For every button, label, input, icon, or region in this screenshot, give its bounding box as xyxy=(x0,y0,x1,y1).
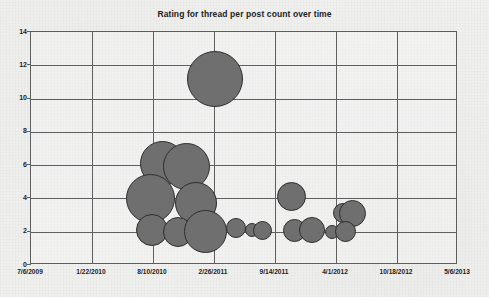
x-axis-tick-label: 2/26/2011 xyxy=(199,268,228,275)
page-title: Rating for thread per post count over ti… xyxy=(0,9,489,19)
x-axis: 7/6/20091/22/20108/10/20102/26/20119/14/… xyxy=(0,266,489,282)
x-axis-tick-label: 8/10/2010 xyxy=(137,268,166,275)
y-axis-tick-mark xyxy=(27,31,31,32)
y-axis-tick-label: 6 xyxy=(3,161,27,168)
x-axis-tick-label: 1/22/2010 xyxy=(76,268,105,275)
y-axis: 02468101214 xyxy=(0,31,27,264)
gridline-horizontal xyxy=(31,198,456,199)
data-bubble[interactable] xyxy=(299,217,325,243)
y-axis-tick-mark xyxy=(27,64,31,65)
x-axis-tick-label: 4/1/2012 xyxy=(322,268,348,275)
x-axis-tick-label: 5/6/2013 xyxy=(444,268,470,275)
x-axis-tick-label: 9/14/2011 xyxy=(259,268,288,275)
y-axis-tick-mark xyxy=(27,98,31,99)
y-axis-tick-mark xyxy=(27,231,31,232)
y-axis-tick-label: 2 xyxy=(3,227,27,234)
y-axis-tick-label: 12 xyxy=(3,61,27,68)
x-axis-tick-label: 10/18/2012 xyxy=(379,268,412,275)
plot-area xyxy=(30,31,457,264)
data-bubble[interactable] xyxy=(226,218,246,238)
y-axis-tick-label: 8 xyxy=(3,127,27,134)
y-axis-tick-mark xyxy=(27,264,31,265)
gridline-horizontal xyxy=(31,165,456,166)
x-axis-tick-label: 7/6/2009 xyxy=(17,268,43,275)
y-axis-tick-mark xyxy=(27,131,31,132)
y-axis-tick-label: 14 xyxy=(3,28,27,35)
gridline-vertical xyxy=(92,32,93,263)
bubble-chart: Rating for thread per post count over ti… xyxy=(0,0,489,297)
y-axis-tick-mark xyxy=(27,197,31,198)
y-axis-tick-mark xyxy=(27,164,31,165)
gridline-horizontal xyxy=(31,65,456,66)
gridline-horizontal xyxy=(31,99,456,100)
y-axis-tick-label: 10 xyxy=(3,94,27,101)
data-bubble[interactable] xyxy=(277,182,306,211)
gridline-vertical xyxy=(397,32,398,263)
gridline-vertical xyxy=(275,32,276,263)
data-bubble[interactable] xyxy=(187,51,243,107)
data-bubble[interactable] xyxy=(184,210,227,253)
data-bubble[interactable] xyxy=(253,221,272,240)
y-axis-tick-label: 4 xyxy=(3,194,27,201)
gridline-horizontal xyxy=(31,132,456,133)
data-bubble[interactable] xyxy=(335,221,356,242)
